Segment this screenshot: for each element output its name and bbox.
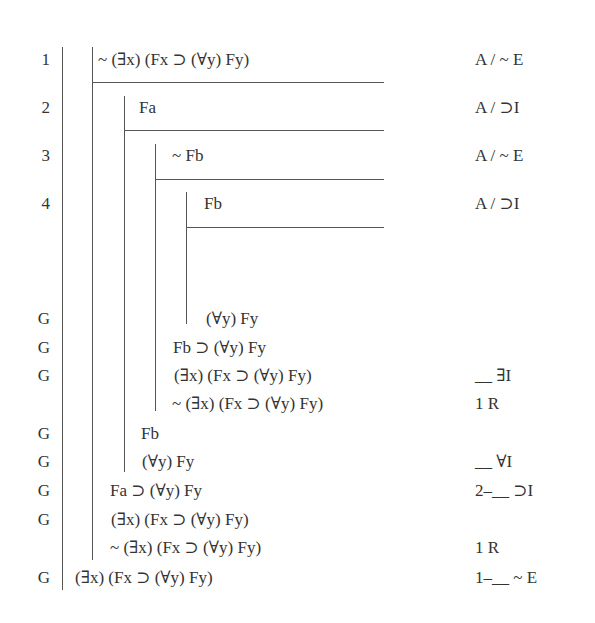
formula: Fb ⊃ (∀y) Fy bbox=[173, 338, 266, 358]
assumption-bar-2 bbox=[124, 130, 384, 131]
formula: Fb bbox=[204, 194, 222, 214]
line-label: G bbox=[20, 338, 50, 358]
formula: ~ (∃x) (Fx ⊃ (∀y) Fy) bbox=[110, 538, 261, 558]
line-label: G bbox=[20, 510, 50, 530]
assumption-bar-1 bbox=[92, 82, 384, 83]
line-label: G bbox=[20, 452, 50, 472]
justification: A / ~ E bbox=[475, 146, 523, 166]
justification: __ ∀I bbox=[475, 452, 512, 472]
formula: (∃x) (Fx ⊃ (∀y) Fy) bbox=[111, 510, 249, 530]
line-label: 2 bbox=[20, 98, 50, 118]
formula: Fa ⊃ (∀y) Fy bbox=[110, 481, 202, 501]
justification: A / ⊃I bbox=[475, 98, 519, 118]
line-label: G bbox=[20, 424, 50, 444]
justification: 2–__ ⊃I bbox=[475, 481, 533, 501]
formula: (∀y) Fy bbox=[206, 309, 258, 329]
scope-line-2 bbox=[124, 96, 125, 472]
line-label: G bbox=[20, 481, 50, 501]
scope-line-0 bbox=[62, 47, 63, 590]
justification: A / ⊃I bbox=[475, 194, 519, 214]
formula: (∀y) Fy bbox=[142, 452, 194, 472]
formula: (∃x) (Fx ⊃ (∀y) Fy) bbox=[75, 568, 213, 588]
scope-line-4 bbox=[186, 192, 187, 324]
scope-line-3 bbox=[155, 144, 156, 411]
assumption-bar-3 bbox=[155, 179, 384, 180]
line-label: G bbox=[20, 568, 50, 588]
assumption-bar-4 bbox=[186, 227, 384, 228]
formula: ~ Fb bbox=[172, 146, 203, 166]
scope-line-1 bbox=[92, 47, 93, 560]
line-label: 4 bbox=[20, 194, 50, 214]
formula: Fb bbox=[141, 424, 159, 444]
line-label: G bbox=[20, 309, 50, 329]
justification: 1 R bbox=[475, 394, 499, 414]
line-label: G bbox=[20, 366, 50, 386]
formula: (∃x) (Fx ⊃ (∀y) Fy) bbox=[174, 366, 312, 386]
justification: __ ∃I bbox=[475, 366, 511, 386]
justification: 1 R bbox=[475, 538, 499, 558]
line-label: 1 bbox=[20, 50, 50, 70]
justification: 1–__ ~ E bbox=[475, 568, 537, 588]
line-label: 3 bbox=[20, 146, 50, 166]
formula: Fa bbox=[139, 98, 156, 118]
formula: ~ (∃x) (Fx ⊃ (∀y) Fy) bbox=[172, 394, 323, 414]
formula: ~ (∃x) (Fx ⊃ (∀y) Fy) bbox=[98, 50, 249, 70]
justification: A / ~ E bbox=[475, 50, 523, 70]
